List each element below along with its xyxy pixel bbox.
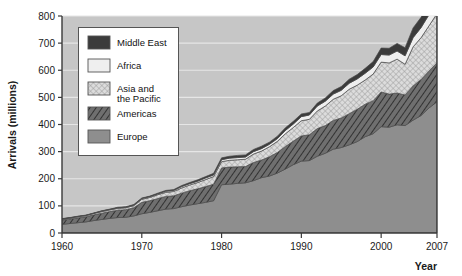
x-tick-label: 1960 — [51, 241, 74, 252]
y-tick-label: 0 — [49, 228, 55, 239]
swatch-africa — [88, 59, 110, 72]
legend-label: Middle East — [117, 37, 167, 48]
y-tick-label: 300 — [38, 146, 55, 157]
x-tick-label: 2007 — [426, 241, 449, 252]
y-axis-title: Arrivals (millions) — [6, 81, 18, 170]
y-tick-label: 100 — [38, 200, 55, 211]
stacked-area-chart: 8007006005004003002001000 19601970198019… — [0, 0, 462, 276]
y-tick-label: 600 — [38, 65, 55, 76]
x-tick-label: 1990 — [290, 241, 313, 252]
y-tick-label: 400 — [38, 119, 55, 130]
x-tick-label: 1980 — [210, 241, 233, 252]
x-tick-label: 2000 — [370, 241, 393, 252]
x-axis-ticks: 196019701980199020002007 — [51, 233, 449, 252]
swatch-americas — [88, 107, 110, 120]
y-tick-label: 500 — [38, 92, 55, 103]
swatch-middle-east — [88, 36, 110, 49]
swatch-europe — [88, 130, 110, 143]
y-tick-label: 800 — [38, 11, 55, 22]
chart-page: 8007006005004003002001000 19601970198019… — [0, 0, 462, 276]
y-tick-label: 200 — [38, 173, 55, 184]
legend-label-line2: the Pacific — [117, 93, 161, 104]
y-tick-label: 700 — [38, 38, 55, 49]
legend-label: Europe — [117, 131, 148, 142]
legend-label: Americas — [117, 108, 157, 119]
chart-legend: Middle EastAfricaAsia andthe PacificAmer… — [79, 28, 179, 156]
legend-label: Africa — [117, 60, 142, 71]
y-axis-ticks: 8007006005004003002001000 — [38, 11, 62, 239]
x-axis-title: Year — [415, 260, 437, 272]
swatch-asia-pacific — [88, 82, 110, 95]
x-tick-label: 1970 — [131, 241, 154, 252]
